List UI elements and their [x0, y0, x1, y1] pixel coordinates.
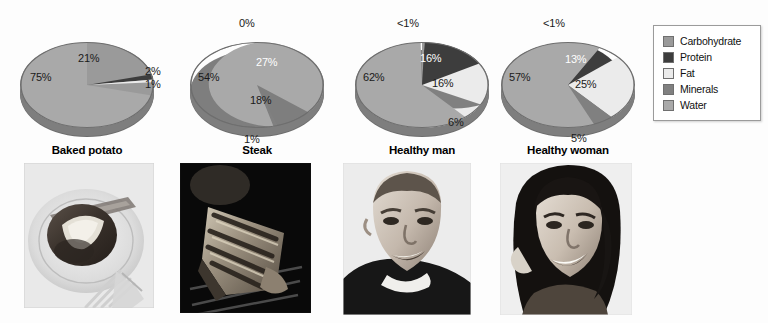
legend-label-protein: Protein [680, 52, 712, 63]
legend-label-water: Water [680, 100, 707, 111]
pie-label-protein-steak: 27% [256, 57, 277, 68]
legend-label-minerals: Minerals [680, 84, 718, 95]
caption-steak: Steak [177, 144, 337, 156]
nutrition-composition-figure: 75% 21% 2% 1% Baked potato [0, 0, 768, 323]
legend-swatch-water-icon [663, 100, 674, 111]
legend-item-carbohydrate: Carbohydrate [663, 33, 752, 49]
pie-label-minerals-man: 6% [448, 117, 464, 128]
pie-label-protein-man: 16% [420, 53, 441, 64]
pie-label-carbohydrate-steak: 0% [239, 18, 255, 29]
composition-legend: Carbohydrate Protein Fat Minerals Water [653, 25, 761, 121]
pie-label-water-potato: 75% [30, 72, 51, 83]
pie-label-water-man: 62% [363, 72, 384, 83]
pie-chart-baked-potato: 75% 21% 2% 1% Baked potato [12, 0, 172, 145]
legend-swatch-protein-icon [663, 52, 674, 63]
pie-graphic-healthy-man: <1% 16% 16% 6% 62% [347, 20, 497, 132]
pie-graphic-healthy-woman: <1% 13% 25% 5% 57% [493, 20, 643, 132]
pie-label-protein-woman: 13% [565, 54, 586, 65]
legend-item-minerals: Minerals [663, 81, 752, 97]
photo-steak [180, 163, 311, 313]
legend-item-water: Water [663, 97, 752, 113]
pie-label-fat-steak: 18% [250, 95, 271, 106]
caption-baked-potato: Baked potato [7, 144, 167, 156]
pie-chart-healthy-woman: <1% 13% 25% 5% 57% Healthy woman [493, 0, 653, 145]
photo-healthy-man [343, 163, 471, 315]
pie-label-fat-potato: 1% [145, 79, 161, 90]
legend-swatch-minerals-icon [663, 84, 674, 95]
pie-label-carbohydrate-potato: 21% [78, 53, 99, 64]
pie-label-water-steak: 54% [198, 72, 219, 83]
pie-chart-healthy-man: <1% 16% 16% 6% 62% Healthy man [347, 0, 507, 145]
pie-label-fat-man: 16% [432, 78, 453, 89]
legend-item-protein: Protein [663, 49, 752, 65]
pie-graphic-steak: 0% 27% 18% 1% 54% [182, 20, 332, 132]
caption-healthy-man: Healthy man [342, 144, 502, 156]
pie-label-carbohydrate-woman: <1% [543, 18, 565, 29]
legend-label-carbohydrate: Carbohydrate [680, 36, 741, 47]
pie-label-water-woman: 57% [509, 72, 530, 83]
pie-label-carbohydrate-man: <1% [397, 18, 419, 29]
photo-baked-potato [24, 163, 154, 308]
pie-face-steak [190, 42, 324, 128]
legend-swatch-carbohydrate-icon [663, 36, 674, 47]
caption-healthy-woman: Healthy woman [488, 144, 648, 156]
pie-label-protein-potato: 2% [145, 66, 161, 77]
legend-swatch-fat-icon [663, 68, 674, 79]
pie-chart-steak: 0% 27% 18% 1% 54% Steak [182, 0, 342, 145]
pie-label-fat-woman: 25% [575, 79, 596, 90]
pie-graphic-baked-potato: 75% 21% 2% 1% [12, 20, 162, 132]
legend-item-fat: Fat [663, 65, 752, 81]
photo-healthy-woman [500, 163, 632, 315]
pie-label-minerals-woman: 5% [571, 133, 587, 144]
legend-label-fat: Fat [680, 68, 695, 79]
